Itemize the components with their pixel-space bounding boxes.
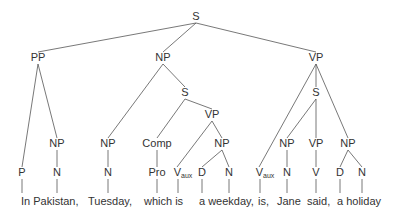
tree-nodes: SPPNPVPSVPSNPNPCompNPNPVPNPPNNProVauxDNV… (18, 10, 366, 179)
tree-edge (38, 64, 57, 138)
tree-edge (212, 121, 222, 138)
tree-node-np: NP (155, 51, 170, 63)
tree-node-vp: VP (309, 137, 324, 149)
sentence-word: Jane (277, 195, 301, 207)
tree-node-s: S (312, 86, 319, 98)
tree-edge (340, 150, 348, 167)
sentence-word: said, (307, 195, 330, 207)
tree-edge (108, 64, 163, 138)
tree-edge (287, 99, 316, 138)
tree-edge (177, 121, 212, 167)
tree-node-d: D (198, 166, 206, 178)
tree-node-n: N (283, 166, 291, 178)
tree-edge (196, 23, 316, 52)
tree-node-p: P (18, 166, 25, 178)
tree-edge (157, 99, 185, 138)
tree-node-d: D (336, 166, 344, 178)
tree-edge (348, 150, 362, 167)
tree-edge (202, 150, 222, 167)
tree-node-n: N (104, 166, 112, 178)
sentence-word: In Pakistan, (21, 195, 78, 207)
tree-edge (316, 64, 348, 138)
tree-edge (38, 23, 196, 52)
tree-node-np: NP (214, 137, 229, 149)
tree-node-pro: Pro (148, 166, 165, 178)
tree-node-comp: Comp (142, 137, 171, 149)
tree-edge (222, 150, 229, 167)
tree-edge (22, 64, 38, 167)
tree-node-vp: VP (205, 108, 220, 120)
tree-node-s: S (192, 10, 199, 22)
sentence-word: is, (258, 195, 269, 207)
sentence-word: a holiday (337, 195, 382, 207)
sentence-words: In Pakistan,Tuesday,which isa weekday,is… (21, 195, 382, 207)
sentence-word: which is (143, 195, 184, 207)
tree-node-n: N (53, 166, 61, 178)
tree-node-n: N (225, 166, 233, 178)
syntax-tree-diagram: SPPNPVPSVPSNPNPCompNPNPVPNPPNNProVauxDNV… (0, 0, 399, 222)
tree-node-n: N (358, 166, 366, 178)
sentence-word: Tuesday, (88, 195, 132, 207)
sentence-word: a weekday, (199, 195, 254, 207)
tree-node-subscript: aux (263, 172, 275, 179)
tree-edge (259, 64, 316, 167)
word-links (22, 179, 362, 193)
tree-node-np: NP (100, 137, 115, 149)
tree-node-np: NP (340, 137, 355, 149)
tree-edge (163, 64, 185, 87)
tree-node-pp: PP (31, 51, 46, 63)
tree-node-np: NP (49, 137, 64, 149)
tree-node-vp: VP (309, 51, 324, 63)
tree-edge (163, 23, 196, 52)
tree-node-np: NP (279, 137, 294, 149)
tree-node-v: V (312, 166, 320, 178)
tree-node-s: S (181, 86, 188, 98)
tree-node-subscript: aux (181, 172, 193, 179)
